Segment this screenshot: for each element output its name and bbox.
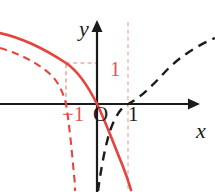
x-tick-label-negative-one: −1 xyxy=(62,104,84,125)
x-axis-label: x xyxy=(196,120,206,142)
y-axis-label: y xyxy=(79,18,89,40)
x-axis-arrowhead xyxy=(188,99,200,110)
plot-canvas xyxy=(0,0,215,192)
y-axis-arrowhead xyxy=(92,20,103,32)
origin-label: O xyxy=(93,104,108,125)
x-tick-label-one: 1 xyxy=(128,104,139,125)
math-graph-figure: y x O −1 1 1 xyxy=(0,0,215,192)
y-tick-label-one: 1 xyxy=(110,59,121,80)
